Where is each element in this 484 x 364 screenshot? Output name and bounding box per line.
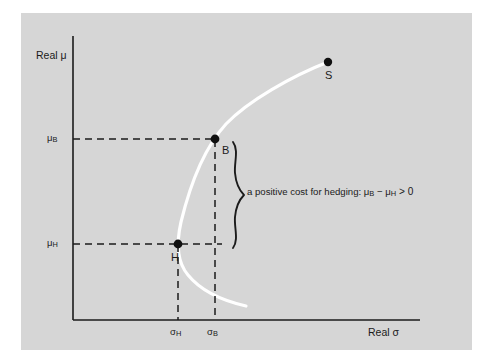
x-tick-label-sigma-b: σB xyxy=(207,327,218,338)
figure-container: Real μ Real σ μB μH σH σB B H S a positi… xyxy=(0,0,484,364)
y-tick-mu-h-subscript: H xyxy=(52,240,57,249)
x-tick-label-sigma-h: σH xyxy=(170,327,181,338)
cost-brace xyxy=(233,142,244,248)
axis-lines xyxy=(73,36,420,320)
hedging-cost-annotation: a positive cost for hedging: μB − μH > 0 xyxy=(247,187,413,198)
data-point-label-h: H xyxy=(171,252,179,263)
annotation-minus-sign: − xyxy=(374,186,385,197)
annotation-prefix: a positive cost for hedging: xyxy=(247,186,364,197)
data-point-markers xyxy=(174,58,333,249)
efficient-frontier-curve xyxy=(178,62,328,306)
x-tick-sigma-b-subscript: B xyxy=(213,329,218,338)
y-tick-label-mu-b: μB xyxy=(47,133,57,144)
data-point-b xyxy=(211,135,220,144)
annotation-comparison: > 0 xyxy=(396,186,413,197)
x-tick-sigma-h-subscript: H xyxy=(176,329,181,338)
chart-plot-area xyxy=(0,0,484,364)
y-tick-label-mu-h: μH xyxy=(47,238,58,249)
y-tick-mu-b-subscript: B xyxy=(52,135,57,144)
data-point-h xyxy=(174,240,183,249)
y-axis-label: Real μ xyxy=(36,50,67,61)
data-point-s xyxy=(324,58,332,66)
x-axis-label: Real σ xyxy=(368,327,399,338)
data-point-label-s: S xyxy=(325,70,332,81)
data-point-label-b: B xyxy=(222,145,229,156)
